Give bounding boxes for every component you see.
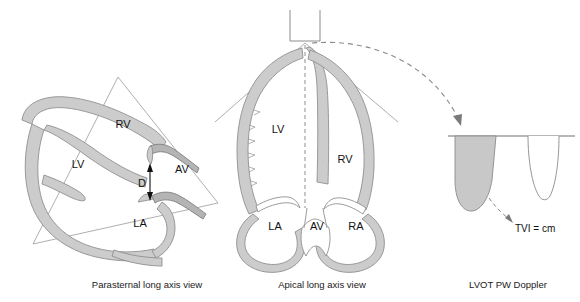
caption-doppler: LVOT PW Doppler xyxy=(469,279,547,290)
transducer-icon xyxy=(290,10,320,41)
echocardiography-figure: RV LV AV D LA Parasternal long axis view xyxy=(0,0,580,302)
label-lv-apical: LV xyxy=(272,123,285,135)
label-d-diameter: D xyxy=(138,177,146,189)
label-ra-apical: RA xyxy=(348,220,364,232)
label-av-apical: AV xyxy=(310,220,325,232)
caption-apical: Apical long axis view xyxy=(278,279,366,290)
label-av-parasternal: AV xyxy=(175,163,190,175)
label-la-apical: LA xyxy=(268,220,282,232)
label-lv-parasternal: LV xyxy=(72,158,85,170)
caption-parasternal: Parasternal long axis view xyxy=(92,279,202,290)
label-rv-apical: RV xyxy=(337,153,353,165)
label-rv-parasternal: RV xyxy=(115,118,131,130)
label-tvi: TVI = cm xyxy=(515,223,555,234)
label-la-parasternal: LA xyxy=(133,217,147,229)
